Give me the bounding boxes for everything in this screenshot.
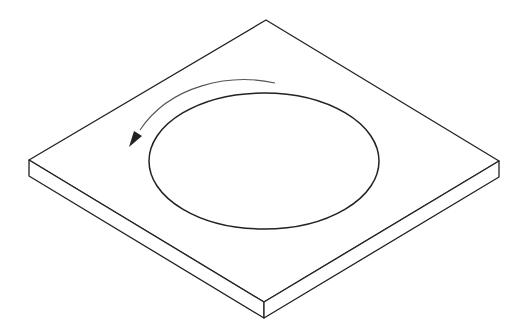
plate-diagram (0, 0, 528, 329)
diagram-canvas (0, 0, 528, 329)
plate-top-face (29, 20, 499, 302)
